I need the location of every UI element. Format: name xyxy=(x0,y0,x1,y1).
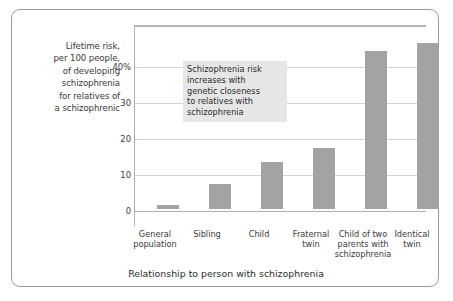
bar-child xyxy=(261,162,283,209)
annotation-line: to relatives with xyxy=(187,96,283,107)
y-tick-label-10: 10 xyxy=(91,170,131,180)
y-tick-label-0: 0 xyxy=(91,206,131,216)
bar-sibling xyxy=(209,184,231,209)
gridline-0: 0 xyxy=(135,211,426,212)
bar-fraternal-twin xyxy=(313,148,335,209)
x-axis-title: Relationship to person with schizophreni… xyxy=(12,268,440,279)
y-axis-title-line: schizophrenia xyxy=(16,77,120,89)
annotation-line: increases with xyxy=(187,75,283,86)
annotation-line: genetic closeness xyxy=(187,86,283,97)
x-tick-line: twin xyxy=(384,239,440,249)
x-tick-line: Identical xyxy=(384,229,440,239)
bar-child-of-two-parents xyxy=(365,51,387,209)
y-tick-label-20: 20 xyxy=(91,134,131,144)
chart-annotation: Schizophrenia risk increases with geneti… xyxy=(183,61,287,122)
chart-figure: Lifetime risk, per 100 people, of develo… xyxy=(11,9,439,287)
annotation-line: Schizophrenia risk xyxy=(187,64,283,75)
x-tick-label-identical-twin: Identical twin xyxy=(384,229,440,249)
y-tick-label-40: 40% xyxy=(91,62,131,72)
plot-area: 40% 30 20 10 0 Schizophrenia risk increa… xyxy=(134,25,426,226)
bar-general-population xyxy=(157,205,179,209)
x-tick-line: schizophrenia xyxy=(329,249,397,259)
y-axis-title-line: Lifetime risk, xyxy=(16,40,120,52)
bar-identical-twin xyxy=(417,43,439,209)
x-tick-line: population xyxy=(123,239,187,249)
annotation-line: schizophrenia xyxy=(187,107,283,118)
y-tick-label-30: 30 xyxy=(91,98,131,108)
